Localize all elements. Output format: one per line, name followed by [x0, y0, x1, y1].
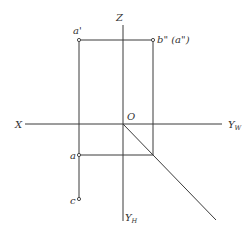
c-label: c — [70, 195, 76, 206]
point-c — [77, 197, 80, 200]
z-axis-label: Z — [115, 12, 124, 23]
a-label: a — [70, 150, 76, 161]
yh-axis-label: YH — [125, 212, 138, 225]
yw-axis-label: YW — [228, 119, 243, 132]
45-degree-line — [123, 124, 216, 220]
origin-label: O — [127, 111, 135, 122]
a-prime-label: a' — [73, 25, 82, 36]
point-a — [77, 153, 80, 156]
x-axis-label: X — [14, 119, 23, 130]
projection-diagram: Z X O YW YH a' b" (a") a c — [0, 0, 251, 242]
point-b-dprime — [151, 38, 154, 41]
b-dprime-label: b" (a") — [157, 34, 190, 45]
point-a-prime — [77, 38, 80, 41]
